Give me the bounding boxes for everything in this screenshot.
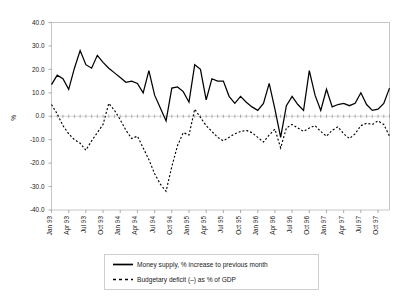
- x-tick-label: Jul 95: [217, 216, 224, 233]
- x-tick-label: Oct 95: [235, 216, 242, 235]
- x-tick-label: Jan 95: [183, 216, 190, 236]
- x-tick-label: Jan 96: [252, 216, 259, 236]
- y-tick-label: 40.0: [32, 19, 45, 26]
- chart-legend: Money supply, % increase to previous mon…: [105, 255, 319, 290]
- y-tick-label: -20.0: [30, 159, 45, 166]
- x-tick-label: Jan 93: [46, 216, 53, 236]
- y-tick-label: -40.0: [30, 206, 45, 213]
- x-tick-label: Apr 96: [269, 216, 277, 235]
- x-tick-label: Jul 96: [286, 216, 293, 233]
- x-tick-label: Jul 94: [149, 216, 156, 233]
- y-tick-label: -30.0: [30, 183, 45, 190]
- y-tick-label: -10.0: [30, 136, 45, 143]
- x-tick-label: Apr 97: [338, 216, 346, 235]
- x-tick-label: Oct 97: [372, 216, 379, 235]
- y-tick-label: 10.0: [32, 89, 45, 96]
- x-tick-label: Jan 94: [114, 216, 121, 236]
- y-tick-label: 0.0: [36, 112, 45, 119]
- x-tick-label: Jan 97: [320, 216, 327, 236]
- x-tick-label: Jul 93: [80, 216, 87, 233]
- x-tick-label: Oct 94: [166, 216, 173, 235]
- x-tick-label: Apr 95: [200, 216, 208, 235]
- x-tick-label: Oct 96: [303, 216, 310, 235]
- legend-box: [105, 255, 319, 290]
- y-tick-label: 20.0: [32, 66, 45, 73]
- legend-label-money-supply: Money supply, % increase to previous mon…: [137, 261, 268, 269]
- x-tick-label: Apr 93: [63, 216, 71, 235]
- x-tick-label: Oct 93: [97, 216, 104, 235]
- legend-label-budgetary-deficit: Budgetary deficit (–) as % of GDP: [137, 276, 237, 284]
- x-tick-label: Apr 94: [131, 216, 139, 235]
- y-axis-title: %: [10, 115, 17, 121]
- chart-container: 40.030.020.010.00.0-10.0-20.0-30.0-40.0 …: [0, 0, 409, 303]
- y-tick-label: 30.0: [32, 42, 45, 49]
- money-supply-deficit-chart: 40.030.020.010.00.0-10.0-20.0-30.0-40.0 …: [0, 0, 409, 303]
- x-tick-label: Jul 97: [355, 216, 362, 233]
